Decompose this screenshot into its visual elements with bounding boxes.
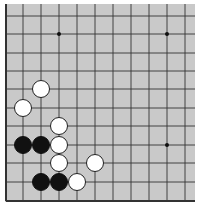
white-stone[interactable] — [51, 118, 68, 135]
go-board[interactable] — [0, 0, 200, 205]
star-point — [57, 32, 61, 36]
white-stone[interactable] — [51, 137, 68, 154]
white-stone[interactable] — [15, 100, 32, 117]
star-point — [165, 143, 169, 147]
white-stone[interactable] — [33, 81, 50, 98]
black-stone[interactable] — [51, 174, 68, 191]
black-stone[interactable] — [33, 137, 50, 154]
white-stone[interactable] — [87, 155, 104, 172]
white-stone[interactable] — [69, 174, 86, 191]
black-stone[interactable] — [33, 174, 50, 191]
black-stone[interactable] — [15, 137, 32, 154]
star-point — [165, 32, 169, 36]
white-stone[interactable] — [51, 155, 68, 172]
